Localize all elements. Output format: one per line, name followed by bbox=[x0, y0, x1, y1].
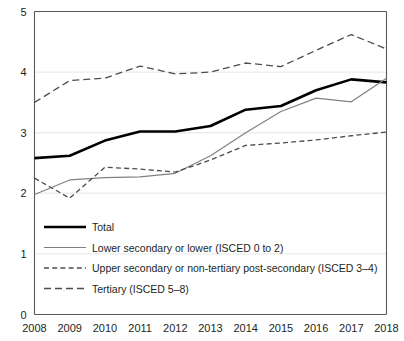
x-tick-label-2014: 2014 bbox=[233, 322, 257, 334]
y-tick-label-5: 5 bbox=[20, 6, 26, 18]
y-tick-label-4: 4 bbox=[20, 66, 26, 78]
x-tick-label-2012: 2012 bbox=[163, 322, 187, 334]
x-tick-labels: 2008200920102011201220132014201520162017… bbox=[22, 322, 398, 334]
y-tick-label-3: 3 bbox=[20, 127, 26, 139]
series-line-0 bbox=[35, 79, 387, 158]
y-tick-label-0: 0 bbox=[20, 309, 26, 321]
x-tick-label-2010: 2010 bbox=[93, 322, 117, 334]
y-tick-labels: 012345 bbox=[20, 6, 26, 321]
y-tick-label-1: 1 bbox=[20, 248, 26, 260]
legend-label-3: Tertiary (ISCED 5–8) bbox=[92, 283, 189, 295]
series-group bbox=[35, 35, 387, 199]
x-tick-label-2018: 2018 bbox=[374, 322, 398, 334]
series-line-1 bbox=[35, 78, 387, 194]
x-tick-label-2013: 2013 bbox=[198, 322, 222, 334]
x-tick-label-2008: 2008 bbox=[22, 322, 46, 334]
line-chart: 0123452008200920102011201220132014201520… bbox=[0, 0, 404, 341]
x-tick-label-2011: 2011 bbox=[128, 322, 152, 334]
x-tick-label-2009: 2009 bbox=[57, 322, 81, 334]
series-line-3 bbox=[35, 35, 387, 103]
gridlines bbox=[35, 12, 387, 254]
legend-label-2: Upper secondary or non-tertiary post-sec… bbox=[92, 262, 377, 274]
x-tick-label-2015: 2015 bbox=[269, 322, 293, 334]
series-line-2 bbox=[35, 132, 387, 198]
chart-canvas: 0123452008200920102011201220132014201520… bbox=[0, 0, 404, 341]
legend-label-1: Lower secondary or lower (ISCED 0 to 2) bbox=[92, 242, 283, 254]
y-tick-label-2: 2 bbox=[20, 187, 26, 199]
x-tick-label-2017: 2017 bbox=[339, 322, 363, 334]
legend: TotalLower secondary or lower (ISCED 0 t… bbox=[44, 221, 377, 295]
legend-label-0: Total bbox=[92, 221, 114, 233]
x-tick-label-2016: 2016 bbox=[304, 322, 328, 334]
